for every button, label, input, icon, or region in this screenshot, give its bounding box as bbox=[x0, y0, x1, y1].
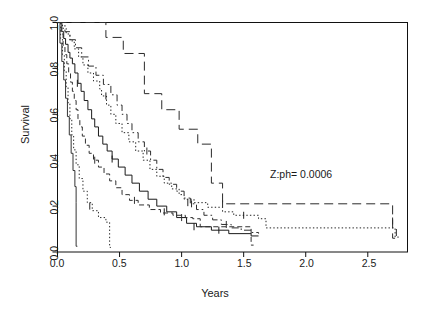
survival-curve-group-2 bbox=[58, 23, 396, 239]
ph-test-annotation: Z:ph= 0.0006 bbox=[270, 169, 332, 180]
x-tick-label-5: 2.5 bbox=[362, 258, 377, 269]
y-tick-label-0: 0.0 bbox=[49, 242, 60, 264]
plot-border bbox=[58, 23, 408, 253]
survival-curve-group-6 bbox=[58, 23, 111, 248]
axis-ticks bbox=[53, 23, 368, 258]
survival-curve-group-3 bbox=[58, 23, 401, 238]
y-tick-label-4: 0.8 bbox=[49, 58, 60, 80]
y-tick-label-5: 1.0 bbox=[49, 12, 60, 34]
survival-curves bbox=[58, 23, 401, 248]
x-axis-title: Years bbox=[0, 288, 430, 299]
x-tick-label-3: 1.5 bbox=[237, 258, 252, 269]
survival-curve-group-5 bbox=[58, 23, 254, 246]
survival-plot-figure: 0.0 0.5 1.0 1.5 2.0 2.5 0.0 0.2 0.4 0.6 … bbox=[0, 0, 430, 309]
y-axis-title: Survival bbox=[20, 105, 31, 144]
plot-frame bbox=[58, 23, 408, 253]
x-tick-label-4: 2.0 bbox=[299, 258, 314, 269]
y-tick-label-3: 0.6 bbox=[49, 104, 60, 126]
x-tick-label-1: 0.5 bbox=[112, 258, 127, 269]
x-tick-label-2: 1.0 bbox=[174, 258, 189, 269]
survival-curve-group-7 bbox=[58, 23, 78, 247]
y-tick-label-1: 0.2 bbox=[49, 196, 60, 218]
y-tick-label-2: 0.4 bbox=[49, 150, 60, 172]
